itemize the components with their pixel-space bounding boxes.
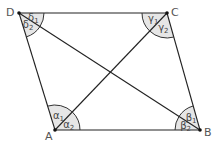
vertex-a-label: A: [45, 130, 53, 143]
diagonal-bd: [19, 13, 200, 130]
diagonal-ac: [55, 13, 167, 130]
vertex-a-point: [53, 128, 57, 132]
vertex-c-point: [165, 11, 169, 15]
vertex-b-point: [198, 128, 202, 132]
parallelogram-diagram: α1α2β1β2γ1γ2δ1δ2ABCD: [0, 0, 223, 145]
vertex-c-label: C: [171, 6, 179, 19]
vertex-d-point: [17, 11, 21, 15]
vertex-d-label: D: [6, 6, 14, 19]
edges: [19, 13, 200, 130]
vertex-b-label: B: [204, 126, 212, 139]
